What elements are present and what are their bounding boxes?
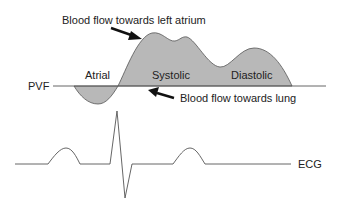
arrow-left-atrium-icon (111, 28, 142, 40)
arrow-lung-label: Blood flow towards lung (180, 92, 296, 104)
atrial-label: Atrial (85, 69, 110, 81)
ecg-label: ECG (298, 158, 322, 170)
pvf-label: PVF (28, 80, 50, 92)
systolic-label: Systolic (152, 69, 190, 81)
atrial-reversal-wave (74, 86, 118, 104)
diastolic-label: Diastolic (231, 69, 273, 81)
pvf-ecg-diagram: PVF Atrial Systolic Diastolic Blood flow… (0, 0, 346, 208)
ecg-trace (15, 111, 291, 198)
arrow-left-atrium-label: Blood flow towards left atrium (62, 14, 206, 26)
arrow-lung-icon (148, 87, 174, 98)
